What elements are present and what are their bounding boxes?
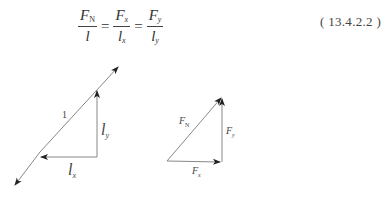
unit-direction-line-lower [15, 152, 40, 185]
lx-label: lx [68, 162, 76, 180]
fx-label: Fx [192, 166, 201, 178]
ly-label: ly [101, 122, 109, 140]
fy-label: Fy [226, 126, 235, 138]
fn-arrow [167, 98, 221, 161]
hyp-label: 1 [62, 110, 67, 120]
right-force-diagram [167, 98, 222, 162]
fn-label: FN [179, 116, 189, 128]
fx-arrow [167, 161, 220, 162]
